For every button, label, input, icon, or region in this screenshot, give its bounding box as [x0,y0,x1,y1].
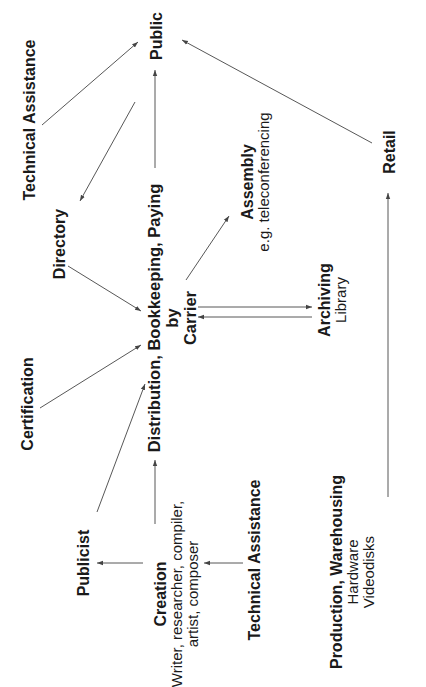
node-assembly-title: Assembly [239,112,256,251]
node-technical-assistance-bottom: Technical Assistance [246,480,263,641]
node-hub-line2: by [164,184,182,453]
edge-certification-to-hub [40,345,141,408]
node-certification: Certification [19,357,36,450]
edge-public-to-directory [80,102,135,201]
node-creation-title: Creation [152,501,169,687]
node-assembly: Assembly e.g. teleconferencing [239,112,272,251]
node-directory-title: Directory [51,209,68,279]
node-retail: Retail [381,130,398,174]
edge-retail-to-public [182,40,372,143]
node-certification-title: Certification [19,357,36,450]
node-publicist: Publicist [75,530,92,597]
node-publicist-title: Publicist [75,530,92,597]
node-directory: Directory [51,209,68,279]
node-technical-assistance-top: Technical Assistance [21,40,38,201]
node-retail-title: Retail [381,130,398,174]
node-production-subtitle-line2: Videodisks [362,475,378,669]
node-archiving-subtitle: Library [334,263,350,337]
node-distribution-hub: Distribution, Bookkeeping, Paying by Car… [146,184,199,453]
edge-publicist-to-hub [97,384,145,512]
node-creation-subtitle-line2: artist, composer [186,501,202,687]
node-public-title: Public [148,12,165,60]
node-technical-assistance-top-title: Technical Assistance [21,40,38,201]
node-public: Public [148,12,165,60]
node-hub-line3: Carrier [182,184,200,453]
node-creation-subtitle-line1: Writer, researcher, compiler, [169,501,185,687]
node-creation: Creation Writer, researcher, compiler, a… [152,501,202,687]
node-assembly-subtitle: e.g. teleconferencing [257,112,273,251]
node-production-warehousing: Production, Warehousing Hardware Videodi… [328,475,378,669]
edge-techassist-top-to-public [42,42,138,125]
node-archiving-title: Archiving [316,263,333,337]
node-production-subtitle-line1: Hardware [345,475,361,669]
node-technical-assistance-bottom-title: Technical Assistance [246,480,263,641]
edge-directory-to-hub [68,266,141,311]
node-production-title: Production, Warehousing [328,475,345,669]
node-archiving: Archiving Library [316,263,349,337]
node-hub-line1: Distribution, Bookkeeping, Paying [146,184,164,453]
